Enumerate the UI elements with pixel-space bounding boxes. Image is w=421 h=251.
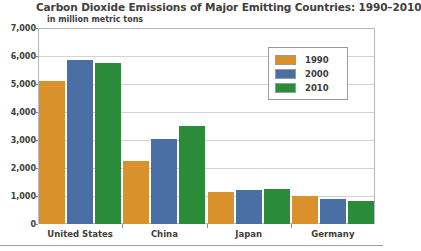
- y-axis-tick-label: 4,000: [2, 108, 36, 117]
- y-axis-tick-label: 1,000: [2, 192, 36, 201]
- y-axis-tickmark: [34, 84, 38, 85]
- y-axis-tickmark: [34, 168, 38, 169]
- bar-japan-2000: [236, 190, 262, 224]
- y-axis-tickmark: [34, 56, 38, 57]
- y-axis-tickmark: [34, 112, 38, 113]
- footer-divider: [0, 245, 383, 246]
- y-axis: 7,0006,0005,0004,0003,0002,0001,0000: [0, 28, 36, 224]
- x-axis-label-china: China: [151, 229, 178, 239]
- y-axis-tick-label: 5,000: [2, 80, 36, 89]
- bar-germany-2000: [320, 199, 346, 224]
- chart-subtitle: in million metric tons: [47, 15, 143, 24]
- legend-item-1990[interactable]: 1990: [275, 53, 342, 66]
- legend-item-2010[interactable]: 2010: [275, 81, 342, 94]
- bar-united-states-2010: [95, 63, 121, 224]
- y-axis-tick-label: 0: [2, 220, 36, 229]
- legend-label: 1990: [305, 55, 329, 65]
- bar-group: [122, 28, 206, 224]
- bar-japan-1990: [208, 192, 234, 224]
- x-axis-label-germany: Germany: [311, 229, 354, 239]
- legend-swatch-2010: [275, 83, 296, 93]
- y-axis-tick-label: 2,000: [2, 164, 36, 173]
- bar-germany-2010: [348, 201, 374, 224]
- x-axis-group-separator: [291, 224, 292, 228]
- legend-item-2000[interactable]: 2000: [275, 67, 342, 80]
- bar-china-1990: [123, 161, 149, 224]
- y-axis-tickmark: [34, 28, 38, 29]
- bar-japan-2010: [264, 189, 290, 224]
- bar-china-2000: [151, 139, 177, 224]
- x-axis-label-united-states: United States: [47, 229, 113, 239]
- bar-united-states-2000: [67, 60, 93, 224]
- y-axis-tickmark: [34, 224, 38, 225]
- x-axis-labels: United StatesChinaJapanGermany: [38, 229, 375, 243]
- legend-swatch-2000: [275, 69, 296, 79]
- y-axis-tick-label: 3,000: [2, 136, 36, 145]
- x-axis-group-separator: [207, 224, 208, 228]
- x-axis-group-separator: [122, 224, 123, 228]
- legend-swatch-1990: [275, 55, 296, 65]
- bar-germany-1990: [292, 196, 318, 224]
- bar-china-2010: [179, 126, 205, 224]
- bar-group: [38, 28, 122, 224]
- y-axis-tick-label: 6,000: [2, 52, 36, 61]
- legend-label: 2000: [305, 69, 329, 79]
- x-axis-label-japan: Japan: [235, 229, 262, 239]
- y-axis-tickmark: [34, 140, 38, 141]
- y-axis-tick-label: 7,000: [2, 24, 36, 33]
- bar-united-states-1990: [39, 81, 65, 224]
- chart-title: Carbon Dioxide Emissions of Major Emitti…: [36, 1, 421, 13]
- chart-legend: 199020002010: [268, 47, 348, 100]
- y-axis-tickmark: [34, 196, 38, 197]
- legend-label: 2010: [305, 83, 329, 93]
